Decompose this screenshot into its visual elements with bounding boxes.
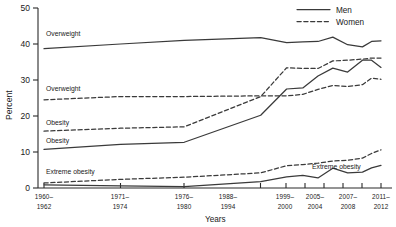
x-tick-label-5-line2: 2000 (278, 203, 293, 210)
x-tick-label-2-line1: 1971– (111, 193, 130, 200)
x-tick-label-4-line1: 1988– (219, 193, 238, 200)
x-tick-label-3-line1: 1976– (175, 193, 194, 200)
x-tick-label-8-line2: 2008 (341, 203, 356, 210)
legend-men-label: Men (336, 6, 352, 15)
x-tick-label-4-line2: 1994 (221, 203, 236, 210)
chart-svg: Men Women 50 40 30 20 10 0 Percent (0, 0, 396, 227)
y-tick-label-50: 50 (21, 3, 31, 13)
obesity-trends-chart: Men Women 50 40 30 20 10 0 Percent (0, 0, 396, 227)
x-axis-title: Years (205, 215, 226, 224)
x-tick-label-2-line2: 1974 (113, 203, 128, 210)
chart-legend: Men Women (297, 6, 365, 27)
y-axis: 50 40 30 20 10 0 Percent (4, 3, 38, 193)
y-tick-label-20: 20 (21, 111, 31, 121)
x-tick-label-1-line2: 1962 (37, 203, 52, 210)
inline-label-extreme-obesity-right: Extreme obesity (312, 163, 361, 171)
inline-label-obesity-men: Obesity (46, 137, 70, 145)
y-tick-label-40: 40 (21, 39, 31, 49)
inline-label-overweight-women: Overweight (46, 85, 80, 93)
x-tick-label-5-line1: 1999– (276, 193, 295, 200)
x-axis: 1960– 1962 1971– 1974 1976– 1980 1988– 1… (35, 183, 392, 224)
series-overweight-men (44, 37, 381, 49)
x-tick-label-8-line1: 2007– (339, 193, 358, 200)
x-tick-label-6-line2: 2004 (308, 203, 323, 210)
inline-label-obesity-women: Obesity (46, 119, 70, 127)
y-tick-label-0: 0 (25, 183, 30, 193)
x-tick-label-3-line2: 1980 (177, 203, 192, 210)
series-overweight-women (44, 78, 381, 100)
x-tick-label-1-line1: 1960– (35, 193, 54, 200)
y-tick-label-10: 10 (21, 147, 31, 157)
inline-label-extreme-obesity-left: Extreme obesity (46, 168, 95, 176)
x-tick-label-9-line1: 2011– (372, 193, 390, 200)
x-tick-label-9-line2: 2012 (374, 203, 389, 210)
y-tick-label-30: 30 (21, 75, 31, 85)
inline-series-labels: Overweight Overweight Obesity Obesity Ex… (46, 30, 361, 176)
x-tick-label-6-line1: 2005– (306, 193, 325, 200)
y-axis-title: Percent (4, 90, 14, 120)
series-obesity-men (44, 60, 381, 149)
legend-women-label: Women (336, 18, 365, 27)
inline-label-overweight-men: Overweight (46, 30, 80, 38)
